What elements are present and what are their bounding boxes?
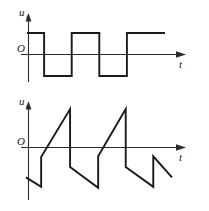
output-y-axis-subscript: o (26, 102, 30, 110)
input-origin-label: O (17, 42, 25, 54)
panel-input-waveform: u i t O (17, 6, 186, 82)
input-y-axis-subscript: i (26, 13, 28, 21)
waveform-svg: u i t O u o t O (0, 0, 209, 211)
input-x-axis-arrow (176, 51, 186, 58)
input-x-axis-label: t (179, 58, 183, 70)
output-x-axis-arrow (176, 144, 186, 151)
output-waveform-trace (26, 109, 172, 188)
input-y-axis-label: u (19, 6, 25, 18)
panel-output-waveform: u o t O (17, 95, 186, 200)
output-origin-label: O (17, 135, 25, 147)
waveform-figure: u i t O u o t O (0, 0, 209, 211)
output-x-axis-label: t (179, 151, 183, 163)
output-y-axis-label: u (19, 95, 25, 107)
